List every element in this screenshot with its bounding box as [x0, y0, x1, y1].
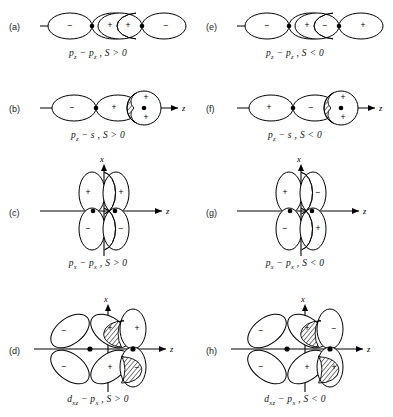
panel-e-art: z − + − +: [197, 0, 393, 48]
sign-f2: −: [309, 102, 314, 112]
z-axis-label: z: [169, 344, 174, 354]
panel-c-art: z x + + − −: [0, 158, 196, 260]
node-f1: [291, 106, 296, 111]
z-axis-arrow: [352, 208, 359, 214]
p-sign-d2: −: [135, 362, 140, 372]
sign-a1: −: [68, 20, 73, 30]
p-lobe-h1: [317, 309, 343, 349]
d-lobe-h1: [242, 307, 293, 354]
sign-c2: +: [119, 187, 124, 197]
panel-f-art: z + − + +: [197, 82, 393, 130]
node-a1: [90, 24, 95, 29]
sign-a4: −: [164, 20, 169, 30]
p-center-d: [130, 346, 135, 351]
panel-f-caption: pz − s , S < 0: [197, 130, 393, 142]
panel-a-art: z − + + −: [0, 0, 196, 48]
node-c1: [91, 209, 96, 214]
s-center-f: [339, 106, 344, 111]
s-center-b: [142, 106, 147, 111]
sign-e3: −: [323, 20, 328, 30]
x-axis-arrow: [105, 304, 111, 311]
x-axis-label: x: [103, 294, 108, 304]
d-sign-h3: +: [305, 362, 310, 372]
p-center-h: [327, 346, 332, 351]
panel-g-art: z x + − − +: [197, 158, 393, 260]
node-e2: [337, 24, 342, 29]
x-axis-arrow: [298, 164, 304, 171]
z-axis-arrow: [159, 346, 166, 352]
z-axis-label: z: [181, 103, 186, 113]
sign-b1: −: [70, 102, 75, 112]
lobe-g4: [300, 208, 326, 250]
d-sign-d3: +: [108, 362, 113, 372]
x-axis-arrow: [101, 164, 107, 171]
z-axis-label: z: [165, 206, 170, 216]
s-sign-f2: +: [341, 112, 346, 122]
sign-e1: −: [265, 20, 270, 30]
node-g1: [288, 209, 293, 214]
sign-c3: −: [86, 223, 91, 233]
d-lobe-h4: [242, 343, 293, 390]
d-sign-d2: +: [108, 323, 113, 333]
lobe-a3: [98, 13, 142, 39]
node-e1: [287, 24, 292, 29]
z-axis-arrow: [356, 346, 363, 352]
z-axis-arrow: [171, 105, 178, 111]
node-c2: [113, 209, 118, 214]
node-g2: [310, 209, 315, 214]
orbital-overlap-figure: (a) z − + + − pz − pz , S > 0 (e) z: [0, 0, 393, 417]
z-axis-arrow: [368, 105, 375, 111]
sign-c4: −: [119, 223, 124, 233]
z-axis-arrow: [155, 208, 162, 214]
sign-a3: +: [126, 20, 131, 30]
sign-a2: +: [108, 20, 113, 30]
panel-e-caption: pz − pz , S < 0: [197, 48, 393, 60]
z-axis-label: z: [366, 344, 371, 354]
panel-b-caption: pz − s , S > 0: [0, 130, 196, 142]
p-sign-h2: +: [332, 362, 337, 372]
sign-g3: −: [283, 223, 288, 233]
d-lobe-d4: [45, 343, 96, 390]
panel-h-caption: dxz − px , S < 0: [197, 394, 393, 406]
panel-g-caption: px − px , S < 0: [197, 258, 393, 270]
d-center-h: [284, 346, 289, 351]
d-center-d: [87, 346, 92, 351]
d-lobe-d1: [45, 307, 96, 354]
panel-h-art: z x − + − + − +: [197, 298, 393, 396]
sign-b2: +: [112, 102, 117, 112]
s-sign-b2: +: [144, 112, 149, 122]
node-a2: [140, 24, 145, 29]
x-axis-label: x: [296, 154, 301, 164]
s-sign-f1: +: [341, 92, 346, 102]
p-lobe-d1: [120, 309, 146, 349]
p-sign-h1: −: [332, 323, 337, 333]
panel-d-art: z x − + − + + −: [0, 298, 196, 396]
lobe-e3: [295, 13, 339, 39]
z-axis-label: z: [378, 103, 383, 113]
x-axis-label: x: [300, 294, 305, 304]
d-sign-h1: −: [259, 325, 264, 335]
d-sign-d4: −: [62, 361, 67, 371]
p-sign-d1: +: [135, 323, 140, 333]
d-sign-h4: −: [259, 361, 264, 371]
sign-e2: +: [305, 20, 310, 30]
node-b1: [94, 106, 99, 111]
d-sign-d1: −: [62, 325, 67, 335]
sign-e4: +: [361, 20, 366, 30]
lobe-c3: [79, 208, 105, 250]
panel-a-caption: pz − pz , S > 0: [0, 48, 196, 60]
panel-b-art: z − + + +: [0, 82, 196, 130]
panel-d-caption: dxz − px , S > 0: [0, 394, 196, 406]
d-sign-h2: +: [305, 323, 310, 333]
sign-f1: +: [267, 102, 272, 112]
panel-c-caption: px − px , S > 0: [0, 258, 196, 270]
sign-g1: +: [283, 187, 288, 197]
lobe-g3: [276, 208, 302, 250]
x-axis-label: x: [99, 154, 104, 164]
x-axis-arrow: [302, 304, 308, 311]
s-sign-b1: +: [144, 92, 149, 102]
sign-g4: +: [316, 223, 321, 233]
z-axis-label: z: [362, 206, 367, 216]
lobe-c4: [103, 208, 129, 250]
sign-c1: +: [86, 187, 91, 197]
